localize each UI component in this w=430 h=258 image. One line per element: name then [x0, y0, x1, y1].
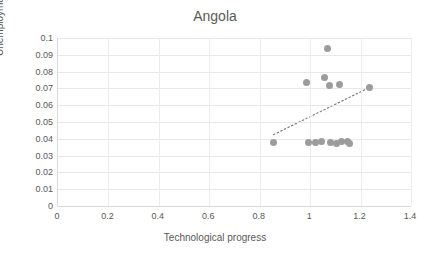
- data-point: [321, 74, 328, 81]
- gridline-horizontal: [58, 88, 411, 89]
- data-point: [303, 79, 310, 86]
- gridline-horizontal: [58, 156, 411, 157]
- y-tick-label: 0: [1, 201, 53, 211]
- chart-title: Angola: [0, 8, 430, 24]
- gridline-horizontal: [58, 55, 411, 56]
- gridline-horizontal: [58, 38, 411, 39]
- y-tick-label: 0.08: [1, 67, 53, 77]
- y-tick-label: 0.1: [1, 33, 53, 43]
- x-tick-label: 0.8: [244, 211, 274, 221]
- gridline-vertical: [411, 38, 412, 206]
- y-tick-label: 0.05: [1, 117, 53, 127]
- gridline-horizontal: [58, 172, 411, 173]
- gridline-vertical: [209, 38, 210, 206]
- plot-area: [57, 38, 411, 207]
- gridline-horizontal: [58, 105, 411, 106]
- gridline-vertical: [159, 38, 160, 206]
- gridline-vertical: [361, 38, 362, 206]
- y-tick-label: 0.01: [1, 184, 53, 194]
- data-point: [270, 139, 277, 146]
- x-axis-title: Technological progress: [0, 232, 430, 243]
- x-tick-label: 1.2: [345, 211, 375, 221]
- x-tick-label: 0.2: [92, 211, 122, 221]
- gridline-vertical: [260, 38, 261, 206]
- x-tick-label: 0: [42, 211, 72, 221]
- x-tick-label: 0.6: [193, 211, 223, 221]
- data-point: [318, 138, 325, 145]
- gridline-vertical: [310, 38, 311, 206]
- y-tick-label: 0.07: [1, 83, 53, 93]
- data-point: [346, 140, 353, 147]
- gridline-horizontal: [58, 139, 411, 140]
- y-tick-label: 0.09: [1, 50, 53, 60]
- x-tick-label: 1.4: [395, 211, 425, 221]
- data-point: [336, 81, 343, 88]
- data-point: [326, 82, 333, 89]
- gridline-horizontal: [58, 189, 411, 190]
- y-tick-label: 0.04: [1, 134, 53, 144]
- scatter-chart: Angola Unemployment rate Technological p…: [0, 0, 430, 258]
- y-tick-label: 0.06: [1, 100, 53, 110]
- y-tick-label: 0.03: [1, 151, 53, 161]
- data-point: [366, 84, 373, 91]
- y-tick-label: 0.02: [1, 167, 53, 177]
- x-tick-label: 0.4: [143, 211, 173, 221]
- x-tick-label: 1: [294, 211, 324, 221]
- y-axis-title: Unemployment rate: [0, 0, 5, 56]
- gridline-horizontal: [58, 122, 411, 123]
- gridline-horizontal: [58, 72, 411, 73]
- gridline-vertical: [108, 38, 109, 206]
